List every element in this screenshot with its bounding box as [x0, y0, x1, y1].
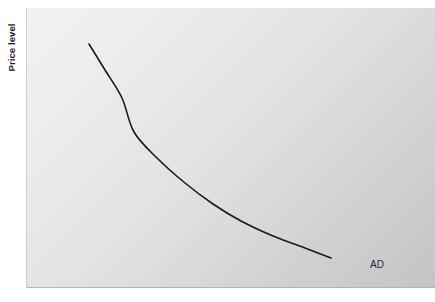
plot-area: AD [26, 8, 435, 288]
y-axis-label: Price level [0, 0, 22, 130]
aggregate-demand-figure: Price level AD [0, 0, 435, 302]
aggregate-demand-curve-label: AD [370, 259, 384, 270]
aggregate-demand-curve [27, 8, 435, 288]
y-axis-label-text: Price level [6, 23, 17, 71]
aggregate-demand-curve-path [89, 44, 331, 258]
